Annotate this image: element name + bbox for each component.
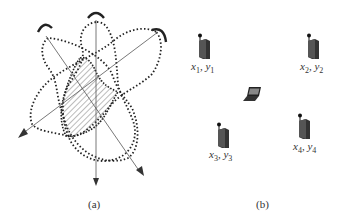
arrow-down-icon (93, 178, 99, 186)
panel-a-beam-diagram: (a) (0, 0, 180, 220)
caption-a: (a) (88, 198, 100, 210)
arrow-down-left-icon (18, 128, 28, 138)
intersection-region (61, 58, 118, 137)
beam-patterns-diagram (0, 0, 180, 220)
coord-label-2: x2, y2 (300, 60, 323, 75)
antenna-cap-icon-2 (88, 13, 104, 18)
access-point-2 (305, 33, 321, 63)
laptop-icon (242, 86, 262, 102)
access-point-4 (296, 113, 312, 143)
laptop (242, 86, 262, 106)
server-tower-icon (305, 33, 321, 59)
server-tower-icon (215, 122, 231, 148)
server-tower-icon (196, 33, 212, 59)
access-point-1 (196, 33, 212, 63)
coord-label-3: x3, y3 (209, 148, 232, 163)
coord-label-4: x4, y4 (293, 140, 316, 155)
coord-label-1: x1, y1 (191, 60, 214, 75)
caption-b: (b) (256, 198, 269, 210)
antenna-cap-icon-1 (38, 25, 52, 32)
server-tower-icon (296, 113, 312, 139)
